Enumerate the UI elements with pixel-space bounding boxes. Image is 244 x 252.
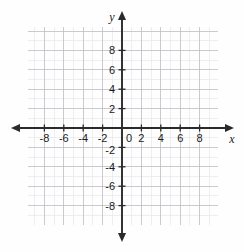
x-tick-label: -4: [78, 132, 88, 144]
x-tick-label: 8: [197, 132, 203, 144]
x-tick-label: 2: [138, 132, 144, 144]
y-tick-label: 4: [109, 83, 115, 95]
x-tick-label: -6: [59, 132, 69, 144]
x-tick-label: 4: [158, 132, 164, 144]
y-tick-label: -6: [105, 180, 115, 192]
origin-label: 0: [126, 132, 132, 144]
x-tick-label: -2: [98, 132, 108, 144]
coordinate-plane-figure: -8-6-4-22468 8642-2-4-6-8 0 x y: [0, 0, 244, 252]
y-tick-label: 2: [109, 103, 115, 115]
x-tick-label: 6: [177, 132, 183, 144]
x-axis-label: x: [228, 132, 235, 146]
coordinate-plane-svg: -8-6-4-22468 8642-2-4-6-8 0 x y: [0, 0, 244, 252]
y-axis-label: y: [108, 10, 115, 24]
y-tick-label: 6: [109, 64, 115, 76]
y-tick-label: -2: [105, 144, 115, 156]
x-tick-label: -8: [40, 132, 50, 144]
y-tick-label: -4: [105, 161, 115, 173]
y-tick-label: 8: [109, 44, 115, 56]
y-tick-label: -8: [105, 200, 115, 212]
